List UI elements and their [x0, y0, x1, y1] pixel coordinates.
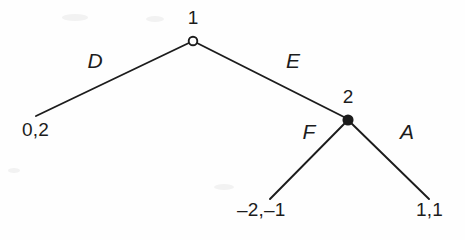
- branch-line-D: [36, 41, 193, 116]
- decision-node-player1-marker: [189, 37, 198, 46]
- action-label-e: E: [286, 50, 300, 71]
- action-label-a: A: [400, 121, 414, 142]
- action-label-d: D: [87, 50, 102, 71]
- decision-node-player2-marker: [343, 115, 352, 124]
- terminal-payoff-f: –2,–1: [237, 200, 286, 219]
- node-label-player1: 1: [188, 8, 199, 27]
- tree-branch-canvas: [0, 0, 465, 240]
- branch-line-A: [348, 120, 429, 199]
- node-label-player2: 2: [343, 87, 354, 106]
- terminal-payoff-a: 1,1: [416, 200, 443, 219]
- branch-line-E: [193, 41, 344, 117]
- action-label-f: F: [303, 121, 316, 142]
- game-tree-figure: 1 2 D E F A 0,2 –2,–1 1,1: [0, 0, 465, 240]
- terminal-payoff-d: 0,2: [22, 120, 49, 139]
